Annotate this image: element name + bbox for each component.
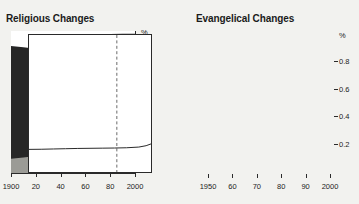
line-series-evangelical (29, 144, 151, 149)
evangelical-y-tickmark-0.4 (334, 116, 338, 117)
evangelical-y-tickmark-0.2 (334, 144, 338, 145)
religious-x-tickmark-40 (61, 173, 62, 177)
evangelical-x-tick-80: 80 (277, 182, 285, 191)
evangelical-x-tick-70: 70 (253, 182, 261, 191)
evangelical-y-tickmark-0.8 (334, 61, 338, 62)
evangelical-x-tick-60: 60 (228, 182, 236, 191)
evangelical-x-tickmark-2000 (330, 174, 331, 178)
evangelical-x-tick-90: 90 (301, 182, 309, 191)
religious-x-tickmark-80 (110, 173, 111, 177)
religious-x-tick-2000: 2000 (127, 182, 144, 191)
evangelical-x-tickmarks (208, 174, 332, 179)
evangelical-y-tick-0.4: 0.4 (339, 112, 349, 121)
evangelical-x-tickmark-80 (281, 174, 282, 178)
evangelical-x-tickmark-1950 (208, 174, 209, 178)
evangelical-x-tickmark-90 (306, 174, 307, 178)
religious-x-tickmark-1900 (11, 173, 12, 177)
religious-chart-title: Religious Changes (6, 13, 94, 24)
evangelical-x-tick-labels: 1950607080902000 (208, 182, 332, 192)
religious-x-tick-20: 20 (32, 182, 40, 191)
religious-x-tick-80: 80 (106, 182, 114, 191)
evangelical-y-tick-0.6: 0.6 (339, 84, 349, 93)
evangelical-x-tickmark-70 (257, 174, 258, 178)
religious-x-tick-labels: 1900204060802000 (11, 182, 135, 192)
evangelical-x-tick-2000: 2000 (322, 182, 339, 191)
evangelical-y-tick-0.8: 0.8 (339, 57, 349, 66)
religious-x-tickmark-20 (36, 173, 37, 177)
evangelical-line-svg (29, 35, 151, 172)
religious-x-tick-60: 60 (81, 182, 89, 191)
evangelical-y-tick-labels: 0.20.40.60.8 (339, 34, 359, 173)
evangelical-plot-area (28, 34, 152, 173)
evangelical-percent-symbol: % (339, 31, 346, 40)
evangelical-chart-title: Evangelical Changes (196, 13, 294, 24)
evangelical-x-tick-1950: 1950 (200, 182, 217, 191)
religious-x-tickmark-60 (85, 173, 86, 177)
religious-x-tick-1900: 1900 (3, 182, 20, 191)
religious-x-tick-40: 40 (56, 182, 64, 191)
evangelical-y-tickmark-0.6 (334, 89, 338, 90)
religious-x-tickmarks (11, 173, 135, 178)
religious-x-tickmark-2000 (135, 173, 136, 177)
two-panel-figure: Religious Changes 1900204060802000 20406… (0, 0, 359, 204)
evangelical-y-tick-0.2: 0.2 (339, 139, 349, 148)
evangelical-x-tickmark-60 (232, 174, 233, 178)
